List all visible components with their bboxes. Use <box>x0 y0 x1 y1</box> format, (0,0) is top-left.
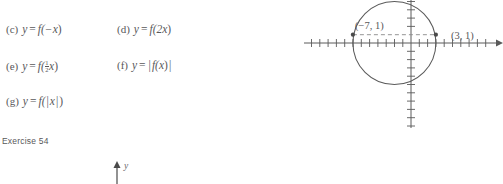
part-label-g: (g) <box>6 95 19 107</box>
exercise-part-c: (c)y=f(−x) <box>6 24 62 36</box>
next-y-axis-arrow <box>114 161 121 168</box>
point-marker-right <box>434 33 438 37</box>
exercise-part-e: (e)y=f(12x) <box>6 60 58 75</box>
exercise-part-d: (d)y=f(2x) <box>117 24 171 36</box>
part-expr-e-prefix: f( <box>38 60 45 72</box>
part-lhs-f: y <box>132 59 137 71</box>
x-axis-arrow <box>496 40 503 47</box>
exercise-caption: Exercise 54 <box>2 136 49 146</box>
point-label-right: (3, 1) <box>451 30 474 42</box>
fraction-one-half: 12 <box>45 60 48 75</box>
part-eq-e: = <box>29 60 36 72</box>
exercise-part-g: (g)y=f(|x|) <box>6 96 63 108</box>
exercise-parts-list: (c)y=f(−x) (d)y=f(2x) (e)y=f(12x) (f)y=|… <box>0 0 300 130</box>
part-lhs-e: y <box>22 60 27 72</box>
part-eq-d: = <box>141 23 148 35</box>
part-lhs-c: y <box>22 23 27 35</box>
part-label-e: (e) <box>6 60 18 72</box>
part-label-f: (f) <box>117 59 128 71</box>
next-y-axis-label: y <box>123 161 129 171</box>
point-label-left: (−7, 1) <box>355 20 384 32</box>
part-lhs-g: y <box>23 95 28 107</box>
part-expr-c-suffix: ) <box>58 23 62 35</box>
part-expr-g-suffix: ) <box>59 95 63 107</box>
point-marker-left <box>351 33 355 37</box>
part-label-c: (c) <box>6 23 18 35</box>
fraction-numerator: 1 <box>45 60 48 67</box>
figure-next-partial-axis: y <box>100 158 220 184</box>
figure-circle-graph: (−7, 1) (3, 1) <box>300 0 503 132</box>
abs-bar-right-f: | <box>168 60 172 72</box>
part-label-d: (d) <box>117 23 130 35</box>
part-expr-f-prefix: f( <box>152 59 159 71</box>
fraction-denominator: 2 <box>45 66 48 74</box>
part-expr-g-prefix: f( <box>38 95 45 107</box>
part-expr-c-prefix: f(− <box>38 23 53 35</box>
part-expr-e-suffix: ) <box>54 60 58 72</box>
part-eq-f: = <box>139 59 146 71</box>
part-lhs-d: y <box>134 23 139 35</box>
textbook-page: (c)y=f(−x) (d)y=f(2x) (e)y=f(12x) (f)y=|… <box>0 0 503 184</box>
part-eq-c: = <box>29 23 36 35</box>
part-expr-d-suffix: ) <box>167 23 171 35</box>
exercise-part-f: (f)y=|f(x)| <box>117 60 172 72</box>
part-eq-g: = <box>30 95 37 107</box>
part-expr-d-prefix: f(2 <box>149 23 162 35</box>
